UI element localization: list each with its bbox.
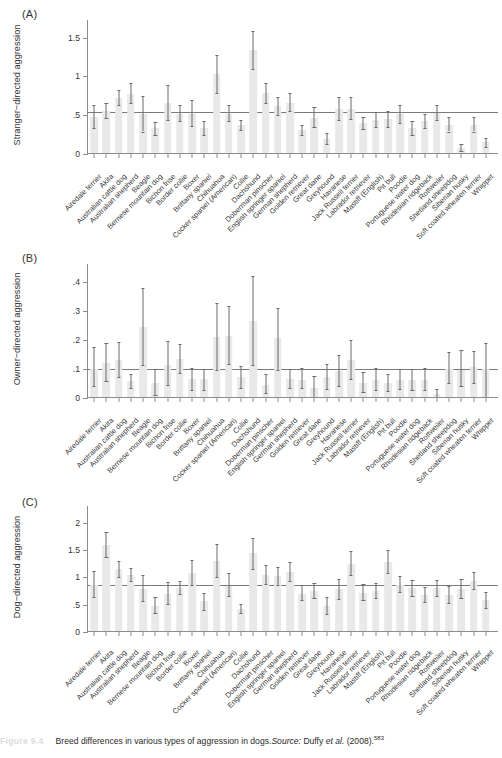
error-bar	[216, 55, 217, 94]
error-bar	[192, 560, 193, 585]
x-tick	[277, 632, 278, 636]
error-bar	[204, 593, 205, 610]
panel-a-plot-area: 0.511.5	[88, 26, 492, 154]
error-bar-cap-upper	[129, 568, 132, 569]
y-tick-label: 1	[75, 71, 80, 81]
x-tick	[253, 632, 254, 636]
error-bar-cap-lower	[325, 389, 328, 390]
x-tick	[412, 154, 413, 158]
error-bar-cap-upper	[166, 582, 169, 583]
error-bar-cap-lower	[178, 373, 181, 374]
error-bar	[302, 368, 303, 388]
error-bar-cap-lower	[411, 390, 414, 391]
error-bar-cap-lower	[252, 69, 255, 70]
error-bar	[314, 107, 315, 126]
error-bar-cap-upper	[362, 117, 365, 118]
error-bar-cap-lower	[460, 598, 463, 599]
error-bar-cap-lower	[484, 608, 487, 609]
x-tick	[118, 154, 119, 158]
error-bar-cap-upper	[472, 117, 475, 118]
y-tick-label: .5	[73, 110, 80, 120]
error-bar	[118, 342, 119, 377]
error-bar-cap-lower	[227, 121, 230, 122]
error-bar	[412, 369, 413, 390]
error-bar-cap-upper	[362, 372, 365, 373]
error-bar-cap-upper	[227, 105, 230, 106]
x-tick	[485, 632, 486, 636]
error-bar-cap-lower	[411, 135, 414, 136]
error-bar	[400, 576, 401, 592]
x-tick	[351, 398, 352, 402]
error-bar-cap-lower	[325, 614, 328, 615]
error-bar-cap-upper	[337, 355, 340, 356]
error-bar-cap-lower	[460, 151, 463, 152]
error-bar-cap-upper	[423, 368, 426, 369]
error-bar-cap-upper	[337, 579, 340, 580]
panel-c-plot: 0.511.52	[88, 512, 492, 632]
panel-c-y-axis-title: Dog−directed aggression	[12, 492, 22, 642]
error-bar-cap-upper	[472, 572, 475, 573]
bar	[115, 98, 123, 154]
error-bar-cap-upper	[215, 303, 218, 304]
error-bar	[473, 351, 474, 383]
x-tick	[155, 154, 156, 158]
x-tick	[228, 632, 229, 636]
x-tick	[167, 632, 168, 636]
error-bar	[192, 368, 193, 390]
error-bar-cap-lower	[227, 596, 230, 597]
error-bar	[436, 105, 437, 120]
error-bar	[290, 369, 291, 388]
bar	[176, 588, 184, 632]
error-bar-cap-lower	[178, 121, 181, 122]
y-tick-label: .5	[73, 600, 80, 610]
error-bar-cap-upper	[337, 97, 340, 98]
error-bar-cap-lower	[117, 377, 120, 378]
panel-b: (B) Owner−directed aggression 0.1.2.3.4 …	[0, 252, 502, 495]
error-bar-cap-upper	[386, 550, 389, 551]
x-tick	[461, 154, 462, 158]
error-bar-cap-lower	[448, 383, 451, 384]
error-bar-cap-lower	[374, 598, 377, 599]
error-bar-cap-upper	[227, 573, 230, 574]
figure-number: Figure 9.4	[0, 736, 44, 746]
error-bar	[485, 592, 486, 608]
error-bar-cap-lower	[129, 388, 132, 389]
y-tick	[83, 311, 88, 312]
y-tick	[83, 76, 88, 77]
panel-a-y-axis-title: Stranger−directed aggression	[12, 10, 22, 160]
error-bar-cap-lower	[117, 577, 120, 578]
error-bar-cap-upper	[154, 122, 157, 123]
error-bar-cap-lower	[154, 613, 157, 614]
error-bar-cap-upper	[484, 592, 487, 593]
x-tick	[387, 632, 388, 636]
error-bar	[424, 114, 425, 128]
b-y-axis-line	[87, 264, 88, 398]
error-bar-cap-upper	[276, 97, 279, 98]
x-tick	[363, 398, 364, 402]
y-tick-label: 0	[75, 393, 80, 403]
x-tick	[94, 398, 95, 402]
error-bar-cap-lower	[399, 389, 402, 390]
error-bar-cap-lower	[203, 135, 206, 136]
reference-line	[87, 369, 498, 370]
x-tick	[290, 398, 291, 402]
y-tick	[83, 282, 88, 283]
error-bar	[375, 583, 376, 598]
error-bar-cap-lower	[411, 596, 414, 597]
error-bar-cap-upper	[141, 575, 144, 576]
x-tick	[314, 632, 315, 636]
error-bar-cap-lower	[93, 128, 96, 129]
error-bar	[473, 572, 474, 589]
error-bar-cap-upper	[301, 368, 304, 369]
error-bar	[265, 374, 266, 393]
error-bar	[179, 105, 180, 121]
x-tick	[400, 398, 401, 402]
error-bar	[155, 122, 156, 135]
x-tick	[130, 398, 131, 402]
x-tick	[241, 398, 242, 402]
y-tick-label: .2	[73, 335, 80, 345]
error-bar-cap-lower	[93, 386, 96, 387]
y-tick	[83, 550, 88, 551]
error-bar	[216, 544, 217, 577]
y-tick-label: 1.5	[68, 33, 80, 43]
